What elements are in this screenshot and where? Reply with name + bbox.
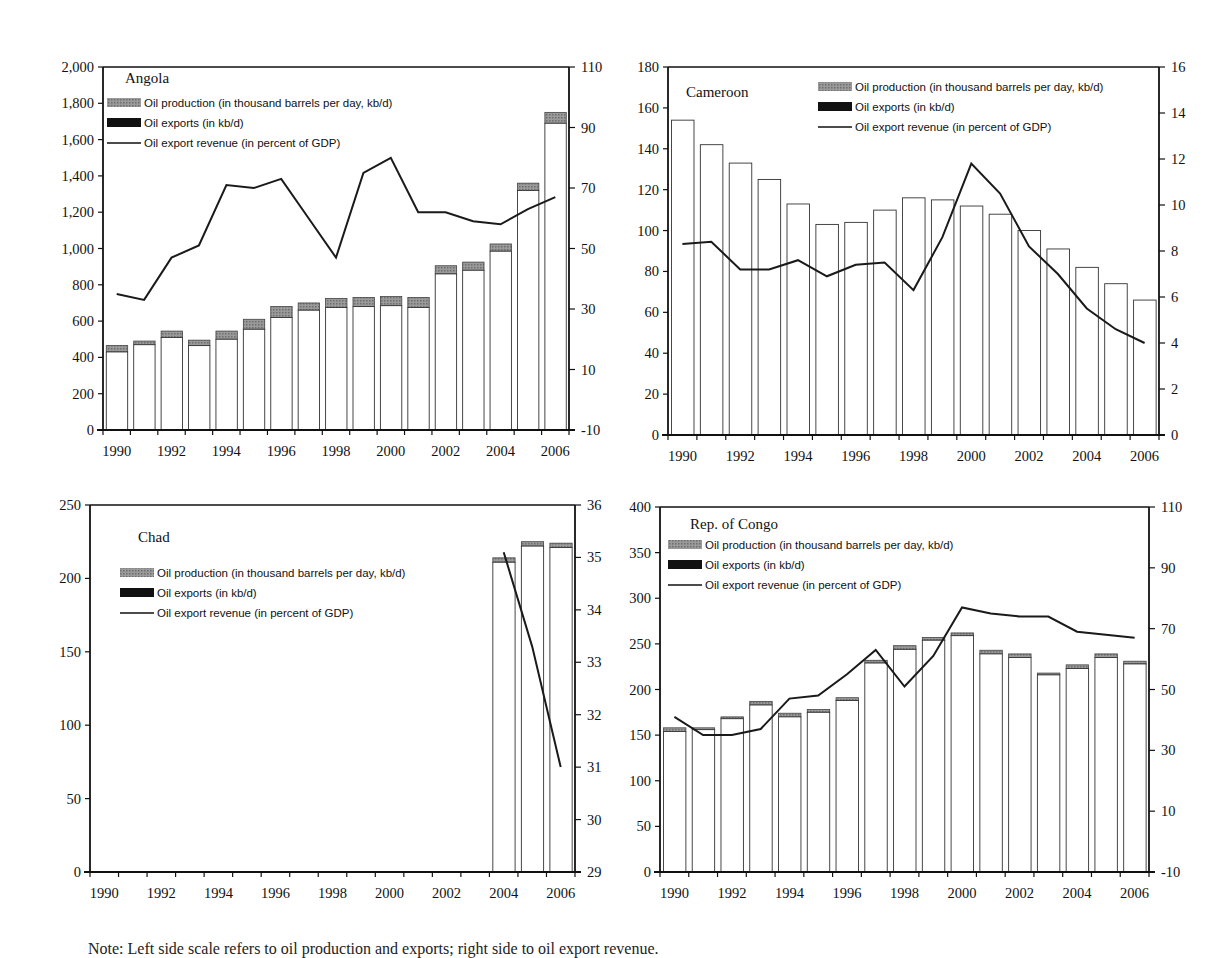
y-tick-label: 350: [629, 545, 651, 561]
chart-title: Chad: [138, 529, 170, 545]
y2-tick-label: 36: [587, 497, 602, 513]
y2-tick-label: 0: [1171, 427, 1178, 443]
y2-tick-label: 110: [1161, 499, 1182, 515]
exports-bar: [298, 310, 319, 430]
y-tick-label: 120: [637, 182, 659, 198]
y-tick-label: 80: [645, 263, 660, 279]
x-tick-label: 2006: [1130, 448, 1159, 464]
x-tick-label: 2006: [546, 885, 575, 901]
production-bar: [353, 298, 374, 307]
legend-revenue: Oil export revenue (in percent of GDP): [855, 121, 1051, 133]
exports-bar: [1076, 267, 1099, 435]
y-tick-label: 0: [74, 864, 81, 880]
x-tick-label: 2002: [1015, 448, 1044, 464]
bars: [106, 112, 566, 430]
legend-revenue: Oil export revenue (in percent of GDP): [705, 579, 901, 591]
production-bar: [980, 650, 1002, 654]
y-tick-label: 1,600: [61, 132, 94, 148]
x-tick-label: 1990: [668, 448, 697, 464]
y-tick-label: 1,400: [61, 168, 94, 184]
x-tick-label: 1998: [322, 443, 351, 459]
exports-bar: [106, 352, 127, 430]
production-bar: [408, 298, 429, 308]
y2-tick-label: 2: [1171, 381, 1178, 397]
y-tick-label: 400: [629, 499, 651, 515]
exports-bar: [951, 636, 973, 872]
exports-bar: [807, 712, 829, 872]
y2-tick-label: 50: [581, 241, 596, 257]
production-bar: [298, 303, 319, 310]
exports-bar: [1009, 658, 1031, 872]
exports-bar: [845, 222, 868, 435]
y-tick-label: 1,000: [61, 241, 94, 257]
exports-bar: [1018, 231, 1041, 435]
exports-bar: [922, 640, 944, 872]
production-bar: [1009, 654, 1031, 658]
production-bar: [545, 112, 566, 123]
x-tick-label: 2006: [541, 443, 570, 459]
production-bar: [517, 183, 538, 190]
y2-tick-label: 32: [587, 707, 602, 723]
exports-swatch: [107, 118, 141, 127]
exports-bar: [960, 206, 983, 435]
legend-exports: Oil exports (in kb/d): [705, 559, 805, 571]
y-tick-label: 50: [67, 791, 82, 807]
x-tick-label: 1990: [102, 443, 131, 459]
y2-tick-label: 30: [1161, 742, 1176, 758]
y2-tick-label: 4: [1171, 335, 1179, 351]
x-tick-label: 1996: [832, 885, 861, 901]
exports-bar: [517, 190, 538, 430]
production-bar: [750, 701, 772, 705]
exports-bar: [134, 345, 155, 430]
exports-bar: [903, 198, 926, 435]
y-tick-label: 200: [59, 570, 81, 586]
exports-bar: [271, 317, 292, 430]
y-tick-label: 1,800: [61, 95, 94, 111]
y-tick-label: 60: [645, 304, 660, 320]
production-bar: [216, 331, 237, 339]
legend-production: Oil production (in thousand barrels per …: [144, 97, 393, 109]
legend: Oil production (in thousand barrels per …: [668, 539, 954, 591]
x-tick-label: 1998: [899, 448, 928, 464]
y2-tick-label: 110: [581, 59, 602, 75]
chad-chart: 0501001502002502930313233343536199019921…: [59, 497, 602, 901]
bars: [493, 542, 572, 872]
y-tick-label: 100: [637, 223, 659, 239]
y2-tick-label: 31: [587, 759, 602, 775]
exports-bar: [721, 719, 743, 872]
angola-chart: 02004006008001,0001,2001,4001,6001,8002,…: [61, 59, 602, 459]
y2-tick-label: 33: [587, 654, 602, 670]
y-tick-label: 200: [72, 386, 94, 402]
y2-tick-label: 34: [587, 602, 602, 618]
exports-bar: [836, 700, 858, 872]
y-tick-label: 0: [644, 864, 651, 880]
exports-bar: [671, 120, 694, 435]
y-tick-label: 0: [652, 427, 659, 443]
production-swatch: [120, 568, 154, 577]
exports-bar: [980, 654, 1002, 872]
y2-tick-label: 30: [587, 812, 602, 828]
production-bar: [550, 543, 572, 547]
y2-tick-label: 10: [1171, 197, 1186, 213]
production-bar: [243, 319, 264, 329]
y-tick-label: 20: [645, 386, 660, 402]
production-bar: [134, 341, 155, 345]
y2-tick-label: 8: [1171, 243, 1178, 259]
production-bar: [894, 646, 916, 650]
exports-bar: [408, 307, 429, 430]
exports-bar: [1105, 284, 1128, 435]
x-tick-label: 2000: [375, 885, 404, 901]
y2-tick-label: 35: [587, 549, 602, 565]
y2-tick-label: 70: [1161, 621, 1176, 637]
exports-swatch: [818, 102, 852, 111]
exports-bar: [216, 339, 237, 430]
y-tick-label: 600: [72, 313, 94, 329]
legend-revenue: Oil export revenue (in percent of GDP): [157, 607, 353, 619]
y-tick-label: 250: [59, 497, 81, 513]
exports-bar: [894, 649, 916, 872]
exports-bar: [550, 548, 572, 872]
production-bar: [161, 331, 182, 337]
legend: Oil production (in thousand barrels per …: [818, 81, 1104, 133]
x-tick-label: 1994: [783, 448, 813, 464]
x-tick-label: 1998: [890, 885, 919, 901]
